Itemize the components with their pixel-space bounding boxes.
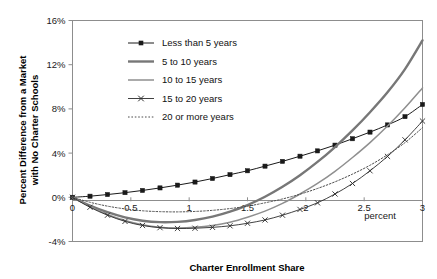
data-point-marker-square [403, 115, 407, 119]
series-line [73, 104, 423, 197]
data-point-marker-square [228, 173, 232, 177]
data-point-marker-square [88, 194, 92, 198]
legend-item-5[interactable]: 20 or more years [128, 111, 234, 122]
legend-label: 10 to 15 years [162, 74, 222, 85]
x-axis-title: Charter Enrollment Share [189, 262, 304, 273]
data-point-marker-square [298, 154, 302, 158]
y-tick-label: 16% [46, 15, 66, 26]
y-tick-label: 12% [46, 59, 66, 70]
data-point-marker-square [210, 176, 214, 180]
data-point-marker-x [350, 181, 355, 186]
y-tick-label: -4% [49, 236, 66, 247]
data-point-marker-x [332, 191, 337, 196]
data-point-marker-square [193, 180, 197, 184]
y-tick-label: 4% [52, 148, 66, 159]
legend-item-4[interactable]: 15 to 20 years [128, 93, 222, 104]
x-tick-label: 0 [70, 202, 75, 213]
chart-container: -4%0%4%8%12%16% 00.511.522.53 Less than … [0, 0, 437, 279]
y-axis-title-line1: Percent Difference from a Market [17, 55, 28, 205]
data-point-marker-square [245, 169, 249, 173]
data-point-marker-x [367, 168, 372, 173]
data-point-marker-square [123, 191, 127, 195]
data-point-marker-x [315, 200, 320, 205]
data-point-marker-square [420, 102, 424, 106]
legend-item-1[interactable]: Less than 5 years [128, 37, 237, 48]
line-chart: -4%0%4%8%12%16% 00.511.522.53 Less than … [0, 0, 437, 279]
legend-label: 5 to 10 years [162, 56, 217, 67]
legend-label: 15 to 20 years [162, 93, 222, 104]
data-point-marker-x [280, 213, 285, 218]
data-point-marker-square [105, 192, 109, 196]
y-axis: -4%0%4%8%12%16% [46, 15, 72, 247]
legend-label: 20 or more years [162, 111, 234, 122]
data-point-marker-square [158, 186, 162, 190]
data-point-marker-square [175, 183, 179, 187]
data-point-marker-square [280, 159, 284, 163]
data-point-marker-square [368, 130, 372, 134]
legend-item-2[interactable]: 5 to 10 years [128, 56, 217, 67]
y-axis-title-line2: with No Charter Schools [29, 75, 40, 186]
y-tick-label: 0% [52, 192, 66, 203]
legend-item-3[interactable]: 10 to 15 years [128, 74, 222, 85]
data-point-marker-square [263, 164, 267, 168]
data-point-marker-square [140, 188, 144, 192]
y-tick-label: 8% [52, 103, 66, 114]
data-point-marker-square [315, 149, 319, 153]
x-unit-note: percent [364, 210, 396, 221]
legend-swatch-square-marker [139, 41, 144, 46]
data-point-marker-x [297, 207, 302, 212]
data-point-marker-square [350, 137, 354, 141]
x-tick-label: 3 [420, 202, 425, 213]
legend-label: Less than 5 years [162, 37, 237, 48]
x-tick-label: 0.5 [124, 202, 137, 213]
series-1 [70, 102, 424, 199]
chart-legend: Less than 5 years5 to 10 years10 to 15 y… [128, 37, 237, 122]
